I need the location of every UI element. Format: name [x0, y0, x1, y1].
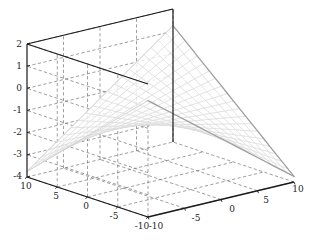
ztick-label-0: 2	[16, 39, 22, 49]
ytick-label-2: 0	[83, 201, 89, 211]
xtick-label-1: -5	[192, 213, 201, 223]
ytick-label-4: -10	[135, 221, 150, 231]
xtick-label-2: 0	[229, 204, 235, 214]
ztick-label-1: 1	[16, 61, 22, 71]
grid-line	[57, 152, 203, 187]
ztick-label-6: -4	[13, 171, 22, 181]
grid-line	[64, 168, 185, 208]
plot-3d-surface: 210-1-2-3-41050-5-10-10-50510	[0, 0, 319, 246]
xtick-label-4: 10	[292, 184, 304, 194]
axis-line	[55, 187, 57, 189]
xtick-label-3: 5	[263, 195, 269, 205]
ytick-label-3: -5	[110, 211, 119, 221]
axis-line	[25, 177, 27, 179]
grid-line	[118, 172, 264, 207]
figure-canvas: 210-1-2-3-41050-5-10-10-50510	[0, 0, 319, 246]
ytick-label-0: 10	[20, 181, 32, 191]
axis-line	[86, 197, 88, 199]
xtick-label-0: -10	[149, 221, 164, 231]
axis-line	[116, 207, 118, 209]
grid-line	[88, 162, 234, 197]
ytick-label-1: 5	[53, 191, 59, 201]
ztick-label-3: -1	[13, 105, 22, 115]
ztick-label-5: -3	[13, 149, 22, 159]
ztick-label-4: -2	[13, 127, 22, 137]
ztick-label-2: 0	[16, 83, 22, 93]
